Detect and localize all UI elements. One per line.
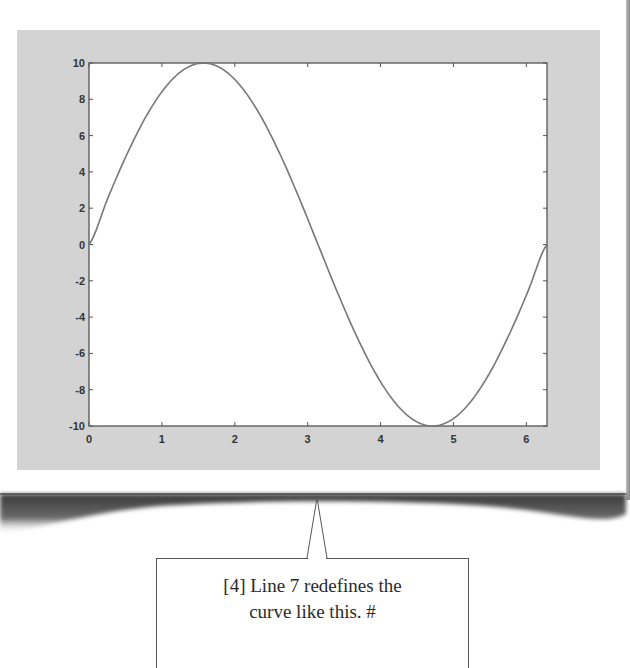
callout-box: [4] Line 7 redefines the curve like this… (156, 558, 469, 668)
callout-text: [4] Line 7 redefines the curve like this… (157, 573, 468, 625)
callout-line-2: curve like this. # (157, 599, 468, 625)
callout-line-1: [4] Line 7 redefines the (157, 573, 468, 599)
